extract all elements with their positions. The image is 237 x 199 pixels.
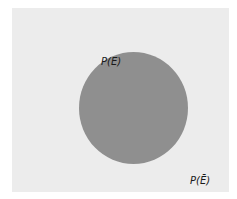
complement-label: P(Ē) <box>190 176 210 186</box>
event-circle <box>79 52 188 164</box>
sample-space-region <box>12 8 229 192</box>
event-label: P(E) <box>101 57 121 67</box>
